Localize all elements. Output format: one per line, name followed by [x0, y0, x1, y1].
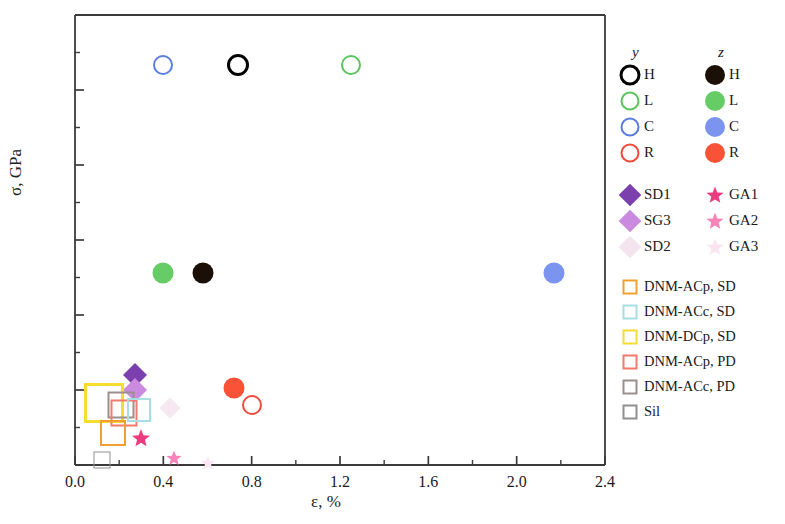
legend-item-sil-label: Sil [642, 403, 660, 420]
marker-glyph [127, 398, 151, 422]
legend-item-sil[interactable]: Sil [618, 400, 785, 423]
legend-row: DNM-DCp, SD [618, 325, 785, 348]
x-tick-label: 0.4 [153, 473, 173, 491]
legend-item-dnm-acc-sd-label: DNM-ACc, SD [642, 303, 735, 320]
legend-header-z: z [718, 44, 724, 61]
legend-item-dnm-acp-sd-marker-icon [618, 276, 642, 298]
legend-item-sg3[interactable]: SG3 [618, 209, 698, 232]
x-tick-label: 1.2 [330, 473, 350, 491]
legend-item-c-z-marker-icon [703, 116, 727, 138]
legend-item-l-z-marker-icon [703, 90, 727, 112]
x-tick-label: 2.4 [595, 473, 615, 491]
legend-item-dnm-acc-sd[interactable]: DNM-ACc, SD [618, 300, 785, 323]
legend-item-h-z-label: H [727, 66, 740, 83]
marker-glyph [544, 262, 565, 283]
x-tick-label: 1.6 [418, 473, 438, 491]
legend-item-h-y[interactable]: H [618, 63, 698, 86]
x-tick-label: 0.0 [65, 473, 85, 491]
legend-item-h-y-marker-icon [618, 64, 642, 86]
legend-item-l-y-label: L [642, 92, 653, 109]
legend-item-r-z[interactable]: R [703, 141, 785, 164]
legend-row: DNM-ACp, SD [618, 275, 785, 298]
legend-item-l-y-marker-icon [618, 90, 642, 112]
marker-glyph [153, 262, 174, 283]
marker-glyph [166, 450, 182, 466]
legend-item-ga1-marker-icon [703, 184, 727, 206]
legend-row: LL [618, 89, 785, 112]
legend-item-ga2-label: GA2 [727, 212, 758, 229]
legend-row: RR [618, 141, 785, 164]
legend-item-sg3-marker-icon [618, 210, 642, 232]
legend-row: SD2GA3 [618, 235, 785, 258]
x-tick-label: 0.8 [242, 473, 262, 491]
legend-item-ga2-marker-icon [703, 210, 727, 232]
legend-item-sd2-marker-icon [618, 236, 642, 258]
marker-glyph [242, 395, 262, 415]
legend-row: DNM-ACp, PD [618, 350, 785, 373]
legend-item-r-y[interactable]: R [618, 141, 698, 164]
marker-glyph [153, 55, 173, 75]
x-tick-label: 2.0 [507, 473, 527, 491]
legend-header-y: y [632, 44, 639, 61]
legend-row: Sil [618, 400, 785, 423]
legend-item-dnm-dcp-sd-marker-icon [618, 326, 642, 348]
legend-item-l-y[interactable]: L [618, 89, 698, 112]
legend-item-dnm-acc-sd-marker-icon [618, 301, 642, 323]
legend-item-c-y-marker-icon [618, 116, 642, 138]
legend-item-ga3-marker-icon [703, 236, 727, 258]
legend-row: CC [618, 115, 785, 138]
legend-item-l-z-label: L [727, 92, 738, 109]
legend-item-dnm-acc-pd-marker-icon [618, 376, 642, 398]
legend-item-c-y[interactable]: C [618, 115, 698, 138]
scatter-chart-figure: σ, GPa ε, % 0306090120150180 0.00.40.81.… [0, 0, 785, 524]
chart-legend: yzHHLLCCRRSD1GA1SG3GA2SD2GA3DNM-ACp, SDD… [618, 44, 785, 444]
marker-glyph [193, 262, 214, 283]
legend-item-sd1-marker-icon [618, 184, 642, 206]
legend-item-h-z-marker-icon [703, 64, 727, 86]
legend-item-r-z-label: R [727, 144, 739, 161]
marker-glyph [200, 455, 215, 470]
legend-item-dnm-acp-pd[interactable]: DNM-ACp, PD [618, 350, 785, 373]
legend-item-r-y-label: R [642, 144, 654, 161]
marker-glyph [132, 428, 151, 447]
legend-item-l-z[interactable]: L [703, 89, 785, 112]
legend-item-ga3[interactable]: GA3 [703, 235, 785, 258]
legend-row: SD1GA1 [618, 183, 785, 206]
legend-item-dnm-acp-sd[interactable]: DNM-ACp, SD [618, 275, 785, 298]
marker-glyph [341, 55, 361, 75]
legend-row: DNM-ACc, SD [618, 300, 785, 323]
legend-item-dnm-acp-pd-label: DNM-ACp, PD [642, 353, 736, 370]
legend-item-c-z[interactable]: C [703, 115, 785, 138]
legend-item-dnm-dcp-sd[interactable]: DNM-DCp, SD [618, 325, 785, 348]
legend-item-h-z[interactable]: H [703, 63, 785, 86]
legend-row: SG3GA2 [618, 209, 785, 232]
legend-item-dnm-acc-pd-label: DNM-ACc, PD [642, 378, 735, 395]
legend-item-r-z-marker-icon [703, 142, 727, 164]
legend-item-sd2-label: SD2 [642, 238, 671, 255]
legend-item-ga2[interactable]: GA2 [703, 209, 785, 232]
legend-item-c-z-label: C [727, 118, 739, 135]
legend-item-sd1[interactable]: SD1 [618, 183, 698, 206]
legend-item-h-y-label: H [642, 66, 655, 83]
marker-glyph [93, 452, 110, 469]
legend-row: DNM-ACc, PD [618, 375, 785, 398]
legend-item-ga3-label: GA3 [727, 238, 758, 255]
legend-item-sd1-label: SD1 [642, 186, 671, 203]
legend-item-c-y-label: C [642, 118, 654, 135]
legend-item-dnm-acp-sd-label: DNM-ACp, SD [642, 278, 736, 295]
legend-item-r-y-marker-icon [618, 142, 642, 164]
legend-row: HH [618, 63, 785, 86]
legend-item-dnm-acp-pd-marker-icon [618, 351, 642, 373]
legend-item-sil-marker-icon [618, 401, 642, 423]
legend-item-ga1-label: GA1 [727, 186, 758, 203]
legend-item-dnm-acc-pd[interactable]: DNM-ACc, PD [618, 375, 785, 398]
marker-glyph [100, 420, 126, 446]
legend-item-ga1[interactable]: GA1 [703, 183, 785, 206]
legend-item-dnm-dcp-sd-label: DNM-DCp, SD [642, 328, 736, 345]
legend-item-sg3-label: SG3 [642, 212, 671, 229]
legend-item-sd2[interactable]: SD2 [618, 235, 698, 258]
marker-glyph [227, 54, 249, 76]
